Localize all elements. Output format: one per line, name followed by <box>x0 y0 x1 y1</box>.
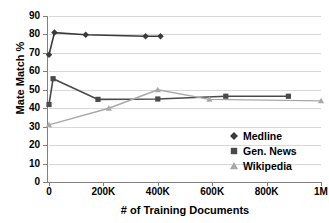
plot-series-layer <box>0 0 329 223</box>
legend-item-label: Wikipedia <box>243 160 292 172</box>
legend-triangle-icon <box>228 160 240 172</box>
chart-legend: MedlineGen. NewsWikipedia <box>228 128 297 173</box>
data-point-marker <box>155 96 160 101</box>
legend-item-wikipedia[interactable]: Wikipedia <box>228 158 297 173</box>
legend-item-label: Medline <box>243 130 282 142</box>
series-medline <box>46 29 164 58</box>
legend-diamond-icon <box>228 130 240 142</box>
legend-square-icon <box>228 145 240 157</box>
x-axis-title: # of Training Documents <box>49 204 321 216</box>
data-point-marker <box>82 32 89 38</box>
data-point-marker <box>230 132 238 140</box>
series-wikipedia <box>46 87 324 128</box>
data-point-marker <box>142 33 149 40</box>
y-axis-title: Mate Match % <box>14 18 26 138</box>
data-point-marker <box>155 87 161 93</box>
legend-item-gen-news[interactable]: Gen. News <box>228 143 297 158</box>
chart-container: 0102030405060708090 0200K400K600K800K1M … <box>0 0 329 223</box>
data-point-marker <box>231 147 237 153</box>
data-point-marker <box>95 97 100 102</box>
legend-item-label: Gen. News <box>243 145 297 157</box>
data-point-marker <box>286 94 291 99</box>
data-point-marker <box>46 102 51 107</box>
data-point-marker <box>230 161 238 168</box>
data-point-marker <box>223 94 228 99</box>
data-point-marker <box>46 51 53 58</box>
data-point-marker <box>51 29 58 35</box>
data-point-marker <box>157 33 164 40</box>
data-point-marker <box>50 76 55 81</box>
legend-item-medline[interactable]: Medline <box>228 128 297 143</box>
